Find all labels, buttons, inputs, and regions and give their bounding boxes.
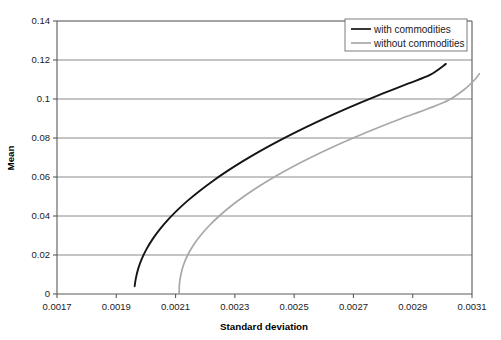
y-tick-label: 0.1 (37, 93, 50, 104)
line-chart: 00.020.040.060.080.10.120.14 0.00170.001… (0, 0, 501, 340)
x-tick-label: 0.0019 (102, 301, 131, 312)
x-tick-label: 0.0025 (280, 301, 309, 312)
series-line (179, 74, 479, 294)
legend-label: with commodities (373, 24, 451, 35)
x-axis-title: Standard deviation (220, 321, 308, 332)
series-line (135, 64, 446, 286)
y-tick-label: 0.08 (32, 132, 51, 143)
x-tick-label: 0.0023 (220, 301, 249, 312)
x-tick-label: 0.0017 (42, 301, 71, 312)
chart-container: 00.020.040.060.080.10.120.14 0.00170.001… (0, 0, 501, 340)
axes-group (57, 21, 472, 294)
x-tick-label: 0.0027 (339, 301, 368, 312)
tick-marks-group (53, 21, 472, 298)
y-axis-title: Mean (5, 145, 16, 170)
x-axis-tick-labels: 0.00170.00190.00210.00230.00250.00270.00… (42, 301, 486, 312)
y-tick-label: 0.02 (32, 249, 51, 260)
y-axis-tick-labels: 00.020.040.060.080.10.120.14 (32, 15, 51, 299)
x-tick-label: 0.0029 (398, 301, 427, 312)
y-tick-label: 0.14 (32, 15, 51, 26)
y-tick-label: 0.06 (32, 171, 51, 182)
data-series-group (135, 64, 480, 294)
y-tick-label: 0.12 (32, 54, 51, 65)
legend: with commoditieswithout commodities (345, 19, 467, 51)
x-tick-label: 0.0031 (457, 301, 486, 312)
legend-label: without commodities (373, 38, 465, 49)
gridlines-group (57, 21, 472, 255)
x-tick-label: 0.0021 (161, 301, 190, 312)
y-tick-label: 0.04 (32, 210, 51, 221)
y-tick-label: 0 (45, 288, 50, 299)
